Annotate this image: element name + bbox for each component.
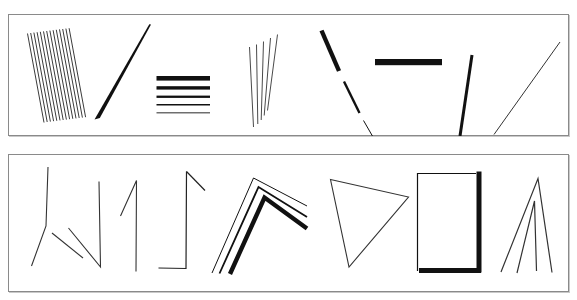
thick-horizontal-bar <box>375 59 442 65</box>
v-shape-open <box>69 182 101 268</box>
figure-root <box>0 0 577 300</box>
panel-bottom-canvas <box>8 154 569 292</box>
panel-bottom-stage <box>8 154 569 292</box>
j-hook-shape <box>159 172 206 269</box>
numeral-one-shape <box>121 181 137 272</box>
triple-peak-lines <box>501 179 552 274</box>
thick-diagonal-left <box>460 55 472 136</box>
nested-chevrons <box>212 178 307 274</box>
panel-top-canvas <box>8 14 569 136</box>
panel-bottom <box>8 154 569 292</box>
thin-diagonal-right <box>494 42 560 135</box>
panel-top <box>8 14 569 136</box>
dashed-diagonal-descending <box>322 31 374 137</box>
horizontal-bar-stack <box>157 76 211 113</box>
vertical-line-fan <box>250 35 278 128</box>
hatched-parallelogram <box>28 28 86 122</box>
tapered-diagonal-wedge <box>95 24 152 119</box>
panel-top-stage <box>8 14 569 136</box>
thin-triangle <box>331 180 409 268</box>
rectangle-mixed-weight <box>417 172 481 273</box>
bent-line-obtuse <box>32 167 84 266</box>
